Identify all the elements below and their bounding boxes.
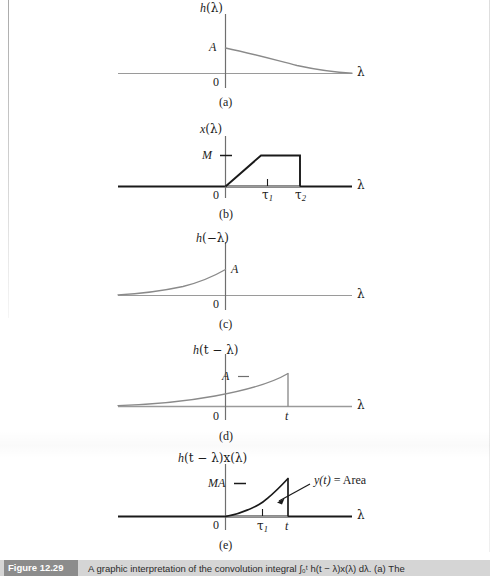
panel-b-plot [0, 118, 490, 230]
panel-d-origin-label: 0 [213, 410, 219, 422]
panel-e-tick-label-t: t [285, 520, 288, 532]
panel-e-tick-label-tau1: τ1 [257, 520, 268, 534]
panel-e-plot [0, 452, 490, 564]
panel-b-tick-label-tau1: τ1 [262, 189, 273, 203]
panel-e-origin-label: 0 [213, 519, 219, 531]
figure-caption-bar: Figure 12.29 A graphic interpretation of… [0, 560, 490, 576]
panel-c-x-axis-label: λ [357, 288, 365, 300]
figure-caption-text: A graphic interpretation of the convolut… [88, 563, 405, 574]
panel-a-letter: (a) [219, 95, 232, 110]
panel-e-amplitude-label: MA [208, 477, 225, 489]
panel-d-tick-label-t: t [285, 410, 288, 422]
panel-e-annotation-arrow-line [279, 484, 310, 501]
panel-d-plot [0, 340, 490, 452]
panel-a-amplitude-label: A [209, 41, 216, 53]
panel-d-x-axis-label: λ [357, 399, 365, 411]
panel-d-curve [118, 374, 288, 406]
panel-b: x(λ) M 0 τ1 τ2 λ (b) [0, 118, 490, 230]
panel-c-ylabel: h(−λ) [196, 232, 229, 244]
panel-a-origin-label: 0 [213, 76, 219, 88]
panel-b-curve [226, 156, 301, 187]
panel-e-annotation: y(t) = Area [314, 474, 366, 486]
panel-c-curve [118, 270, 226, 295]
panel-b-letter: (b) [219, 207, 233, 222]
panel-e-letter: (e) [219, 538, 232, 553]
panel-c-plot [0, 230, 490, 340]
panel-d-ylabel: h(t − λ) [193, 344, 238, 356]
panel-c: h(−λ) A 0 λ (c) [0, 230, 490, 340]
figure-number-label: Figure 12.29 [8, 562, 63, 573]
panel-d: h(t − λ) A 0 t λ (d) [0, 340, 490, 452]
panel-a-plot [0, 0, 490, 118]
panel-a-curve [226, 48, 353, 73]
panel-e-x-axis-label: λ [357, 509, 365, 521]
panel-d-amplitude-label: A [222, 370, 229, 382]
panel-b-amplitude-label: M [202, 149, 212, 161]
panel-b-ylabel: x(λ) [200, 123, 222, 135]
panel-c-amplitude-label: A [231, 263, 238, 275]
panel-e-ylabel: h(t − λ)x(λ) [178, 452, 247, 464]
panel-b-x-axis-label: λ [357, 179, 365, 191]
panel-b-tick-label-tau2: τ2 [295, 189, 306, 203]
panel-c-letter: (c) [219, 317, 232, 332]
panel-b-origin-label: 0 [213, 189, 219, 201]
figure-page: h(λ) A 0 λ (a) x(λ) M 0 τ1 [0, 0, 490, 576]
panel-a-ylabel: h(λ) [200, 2, 223, 14]
panel-d-letter: (d) [219, 429, 233, 444]
figure-number-tag: Figure 12.29 [4, 560, 78, 576]
panel-c-origin-label: 0 [213, 298, 219, 310]
panel-a-x-axis-label: λ [357, 66, 365, 78]
panel-a: h(λ) A 0 λ (a) [0, 0, 490, 118]
panel-e: h(t − λ)x(λ) MA 0 τ1 t y(t) = Area λ (e) [0, 452, 490, 564]
